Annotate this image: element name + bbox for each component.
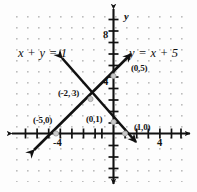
equation-label-x-plus-y-equals-1: x + y = 1 <box>18 47 67 60</box>
point-intersection-marker <box>88 96 93 101</box>
point-0-1-marker <box>111 119 116 124</box>
grid-dots <box>14 10 186 182</box>
y-axis-tick-label-4: 4 <box>103 77 108 88</box>
coordinate-graph-figure: x + y = 1 y = x + 5 (-2, 3) (0,5) (0,1) … <box>0 0 197 192</box>
y-axis-tick-label-8: 8 <box>103 30 108 41</box>
x-axis-tick-label-4: 4 <box>157 138 162 149</box>
equation-label-y-equals-x-plus-5: y = x + 5 <box>129 47 178 60</box>
x-axis-tick-label-neg4: -4 <box>53 138 62 149</box>
point-neg5-0-marker <box>53 131 58 136</box>
point-label-neg5-0: (-5,0) <box>33 116 52 125</box>
point-label-1-0: (1,0) <box>134 123 150 132</box>
point-0-5-marker <box>111 73 116 78</box>
graph-canvas <box>0 0 197 192</box>
point-label-0-5: (0,5) <box>131 64 147 73</box>
point-label-intersection: (-2, 3) <box>58 89 79 98</box>
y-axis-name-label: y <box>124 12 129 23</box>
point-1-0-marker <box>122 131 127 136</box>
point-label-0-1: (0,1) <box>86 115 102 124</box>
